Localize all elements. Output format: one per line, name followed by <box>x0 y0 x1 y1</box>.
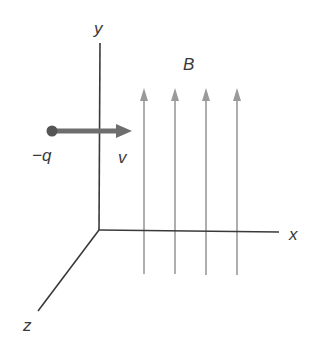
y-axis <box>99 43 100 230</box>
velocity-arrow <box>54 124 132 138</box>
field-line-2 <box>171 88 179 274</box>
x-axis-label: x <box>288 225 298 244</box>
z-axis-label: z <box>22 316 32 335</box>
field-line-1 <box>140 88 148 274</box>
velocity-label: v <box>118 148 128 167</box>
diagram-canvas: y B −q v x z <box>0 0 317 348</box>
x-axis <box>99 230 279 232</box>
charge-dot <box>47 126 58 137</box>
coordinate-axes <box>38 43 279 311</box>
magnetic-field-lines <box>140 88 241 275</box>
field-line-4 <box>233 88 241 275</box>
field-label: B <box>183 55 194 74</box>
charge-label: −q <box>32 146 52 165</box>
y-axis-label: y <box>93 19 104 38</box>
z-axis <box>38 230 99 311</box>
field-line-3 <box>202 88 210 275</box>
